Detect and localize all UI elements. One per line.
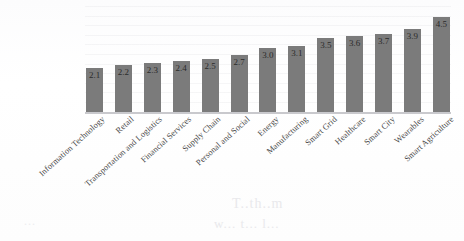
bar: 2.4 (173, 61, 190, 112)
bar: 3.5 (317, 38, 334, 112)
bar-value-label: 2.5 (201, 61, 220, 71)
bleed-through-text-3: ... (24, 214, 36, 229)
bar: 2.7 (231, 55, 248, 112)
bar-slot: 2.3 (144, 6, 161, 112)
bar: 2.3 (144, 63, 161, 112)
bar-value-label: 3.9 (403, 31, 422, 41)
bar-value-label: 2.3 (143, 65, 162, 75)
bar-value-label: 3.7 (374, 36, 393, 46)
bar-slot: 2.2 (115, 6, 132, 112)
category-label: Energy (255, 114, 280, 138)
bar-slot: 3.7 (375, 6, 392, 112)
bar-value-label: 2.1 (85, 70, 104, 80)
x-axis-category-labels: Information TechnologyRetailTransportati… (85, 114, 451, 192)
bar-value-label: 2.2 (114, 67, 133, 77)
bar: 4.5 (433, 17, 450, 112)
bar-slot: 2.7 (231, 6, 248, 112)
plot-area: 2.12.22.32.42.52.73.03.13.53.63.73.94.5 (85, 6, 451, 112)
bar-value-label: 2.7 (230, 57, 249, 67)
bleed-through-text-1: T..th..m (232, 196, 283, 212)
bar: 3.9 (404, 29, 421, 112)
bar: 3.1 (288, 46, 305, 112)
bar-slot: 2.4 (173, 6, 190, 112)
bar-slot: 4.5 (433, 6, 450, 112)
bar: 2.1 (86, 68, 103, 113)
bar-series: 2.12.22.32.42.52.73.03.13.53.63.73.94.5 (85, 6, 451, 112)
bar-value-label: 3.6 (345, 38, 364, 48)
bar-slot: 3.5 (317, 6, 334, 112)
bar: 2.2 (115, 65, 132, 112)
category-label: Smart City (362, 114, 397, 147)
bar-slot: 3.6 (346, 6, 363, 112)
bar: 3.0 (259, 48, 276, 112)
bar-value-label: 2.4 (172, 63, 191, 73)
category-label: Personal and Social (194, 114, 252, 168)
bar-value-label: 4.5 (432, 19, 451, 29)
category-label: Retail (113, 114, 135, 135)
bar-slot: 3.0 (259, 6, 276, 112)
bleed-through-text-2: w... t... l... (214, 216, 280, 232)
bar: 2.5 (202, 59, 219, 112)
bar-slot: 3.9 (404, 6, 421, 112)
bar: 3.7 (375, 34, 392, 112)
category-label: Healthcare (333, 114, 368, 147)
bar: 3.6 (346, 36, 363, 112)
bar-slot: 2.5 (202, 6, 219, 112)
bar-slot: 2.1 (86, 6, 103, 112)
chart-screenshot: T..th..m w... t... l... ... 2.12.22.32.4… (0, 0, 464, 241)
bar-value-label: 3.1 (287, 48, 306, 58)
category-label: Smart Grid (303, 114, 339, 148)
bar-value-label: 3.5 (316, 40, 335, 50)
bar-value-label: 3.0 (258, 50, 277, 60)
bar-slot: 3.1 (288, 6, 305, 112)
